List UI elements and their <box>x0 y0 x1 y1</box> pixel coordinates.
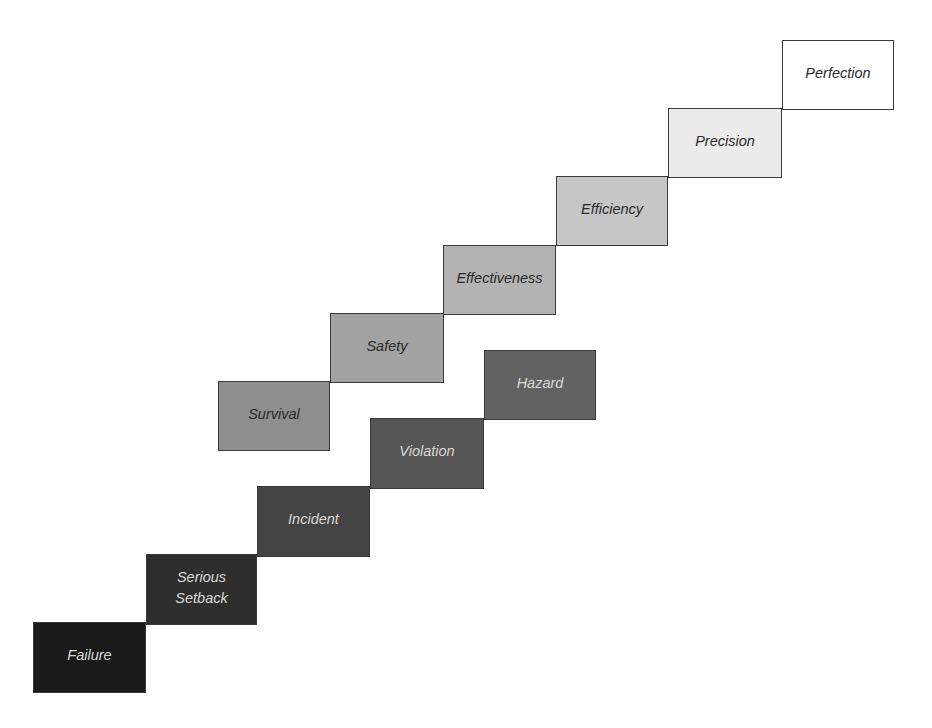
step-precision: Precision <box>668 108 782 178</box>
step-survival: Survival <box>218 381 330 451</box>
step-label: Incident <box>288 509 339 530</box>
step-failure: Failure <box>33 622 146 693</box>
step-label: Hazard <box>517 373 564 394</box>
step-effectiveness: Effectiveness <box>443 245 556 315</box>
step-violation: Violation <box>370 418 484 489</box>
step-label: Efficiency <box>581 199 643 220</box>
step-serious-setback: Serious Setback <box>146 554 257 625</box>
step-efficiency: Efficiency <box>556 176 668 246</box>
step-label: Serious Setback <box>175 567 227 609</box>
step-safety: Safety <box>330 313 444 383</box>
staircase-diagram: SurvivalSafetyEffectivenessEfficiencyPre… <box>0 0 932 728</box>
step-incident: Incident <box>257 486 370 557</box>
step-label: Precision <box>695 131 755 152</box>
step-label: Effectiveness <box>456 268 542 289</box>
step-label: Safety <box>366 336 407 357</box>
step-label: Perfection <box>805 63 870 84</box>
step-perfection: Perfection <box>782 40 894 110</box>
step-label: Survival <box>248 404 300 425</box>
step-label: Failure <box>67 645 111 666</box>
step-label: Violation <box>399 441 454 462</box>
step-hazard: Hazard <box>484 350 596 420</box>
